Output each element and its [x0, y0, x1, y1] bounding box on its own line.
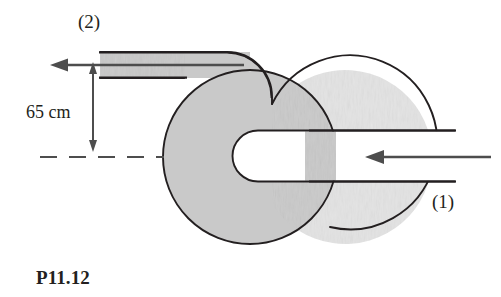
inlet-station-label: (1) — [432, 192, 454, 211]
outlet-station-label: (2) — [78, 12, 100, 31]
dimension-line-65cm — [89, 62, 97, 152]
pipe-bend-diagram — [0, 0, 501, 297]
figure-caption: P11.12 — [36, 268, 90, 287]
figure-container: (2) (1) 65 cm P11.12 — [0, 0, 501, 297]
dimension-label-65cm: 65 cm — [26, 103, 71, 121]
